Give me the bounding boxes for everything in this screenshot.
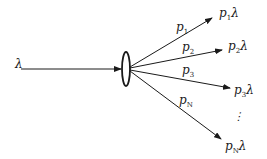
vertical-ellipsis-icon: ⋮ (233, 110, 244, 123)
branch-prob-label-n: pN (179, 93, 193, 109)
output-rate-label-1: p1λ (219, 6, 239, 22)
output-rate-label-2: p2λ (228, 39, 248, 55)
branch-arrow-3 (130, 70, 230, 88)
branch-prob-label-2: p2 (182, 40, 194, 56)
output-rate-label-n: pNλ (225, 139, 246, 155)
branch-arrow-n (130, 71, 221, 139)
output-rate-label-3: p3λ (234, 83, 254, 99)
splitting-diagram: λ p1 p2 p3 pN p1λ p2λ p3λ pNλ ⋮ (0, 0, 267, 159)
branch-prob-label-3: p3 (182, 63, 194, 79)
splitter-node (122, 52, 130, 86)
branch-prob-label-1: p1 (176, 20, 188, 36)
